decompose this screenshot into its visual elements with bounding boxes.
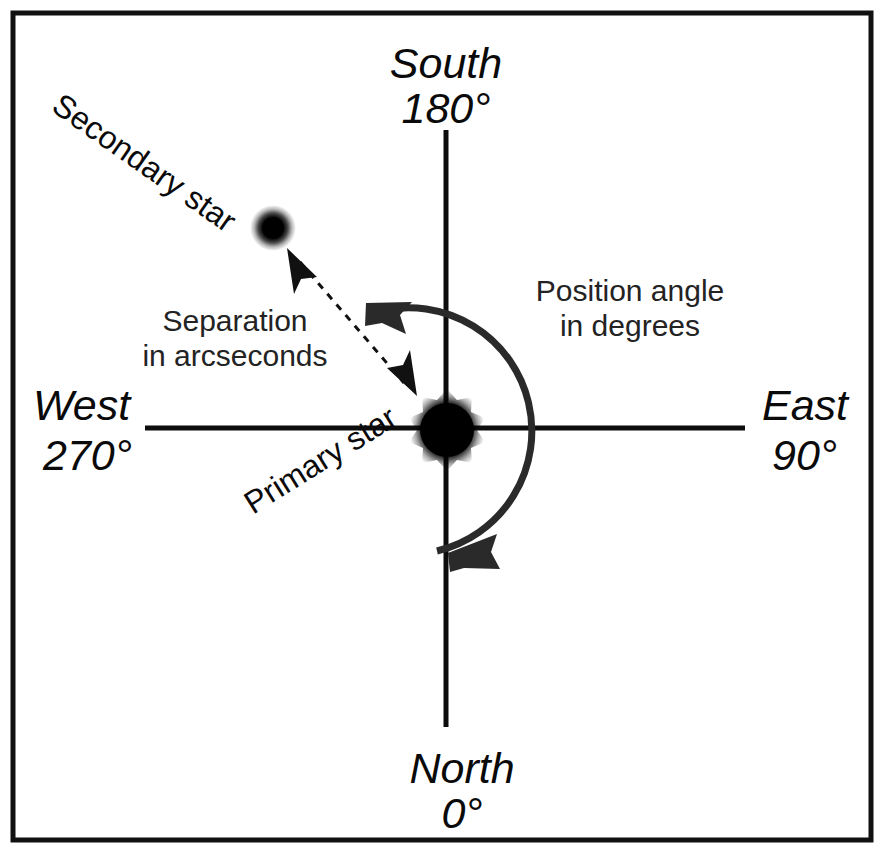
compass-label-east: East 90° xyxy=(762,381,850,479)
primary-star-glyph xyxy=(409,389,485,471)
secondary-star-label: Secondary star xyxy=(46,86,243,239)
star-diagram-svg: South 180° West 270° East 90° North 0° S… xyxy=(0,0,885,857)
primary-star-label: Primary star xyxy=(238,399,404,521)
south-degrees: 180° xyxy=(402,84,491,132)
compass-label-west: West 270° xyxy=(33,381,132,479)
east-degrees: 90° xyxy=(772,431,837,479)
north-name: North xyxy=(409,744,514,792)
separation-label-line2: in arcseconds xyxy=(142,339,327,372)
north-degrees: 0° xyxy=(441,789,482,837)
south-name: South xyxy=(390,39,502,87)
east-name: East xyxy=(762,381,850,429)
west-name: West xyxy=(33,381,132,429)
position-angle-arrow-start xyxy=(365,302,412,334)
separation-label-line1: Separation xyxy=(162,304,307,337)
compass-label-south: South 180° xyxy=(390,39,502,132)
separation-label: Separation in arcseconds xyxy=(142,304,327,372)
position-angle-label: Position angle in degrees xyxy=(536,274,724,342)
secondary-star-glyph xyxy=(250,205,296,251)
position-angle-label-line2: in degrees xyxy=(560,309,700,342)
position-angle-arrow-end xyxy=(448,534,500,572)
compass-label-north: North 0° xyxy=(409,744,514,837)
separation-arrow-to-secondary xyxy=(287,248,317,294)
position-angle-label-line1: Position angle xyxy=(536,274,724,307)
west-degrees: 270° xyxy=(42,431,132,479)
separation-arrow-to-primary xyxy=(387,350,417,396)
diagram-canvas: South 180° West 270° East 90° North 0° S… xyxy=(0,0,885,857)
